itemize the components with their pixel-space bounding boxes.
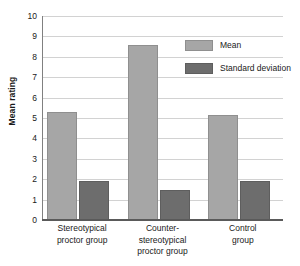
- y-tick-label-10: 10: [3, 12, 42, 21]
- x-label-line: group: [191, 235, 295, 247]
- x-label-group-3: Controlgroup: [191, 223, 295, 246]
- bar-standard-deviation-group-1: [79, 181, 109, 220]
- y-tick-label-6: 6: [3, 93, 42, 102]
- x-axis-line: [42, 219, 283, 221]
- bar-standard-deviation-group-2: [160, 190, 190, 220]
- x-label-line: Control: [191, 223, 295, 235]
- legend-swatch-standard-deviation-icon: [185, 63, 213, 74]
- bar-standard-deviation-group-3: [240, 181, 270, 220]
- y-tick-label-4: 4: [3, 134, 42, 143]
- y-tick-label-2: 2: [3, 175, 42, 184]
- bar-mean-group-3: [208, 115, 238, 220]
- x-label-line: proctor group: [110, 246, 214, 258]
- y-tick-label-3: 3: [3, 155, 42, 164]
- legend-item-mean: Mean: [185, 40, 291, 51]
- legend-item-standard-deviation: Standard deviation: [185, 63, 291, 74]
- x-axis-category-labels: Stereotypicalproctor groupCounter-stereo…: [42, 223, 283, 266]
- bar-mean-group-2: [128, 45, 158, 220]
- y-axis-line: [42, 16, 43, 220]
- bar-mean-group-1: [47, 112, 77, 220]
- bar-chart: Mean rating 109876543210 Mean Standard d…: [0, 0, 300, 266]
- y-tick-label-8: 8: [3, 53, 42, 62]
- y-tick-label-9: 9: [3, 32, 42, 41]
- y-tick-label-7: 7: [3, 73, 42, 82]
- legend-label-mean: Mean: [220, 41, 241, 50]
- chart-legend: Mean Standard deviation: [185, 40, 291, 86]
- legend-label-standard-deviation: Standard deviation: [220, 64, 291, 73]
- y-tick-label-1: 1: [3, 195, 42, 204]
- legend-swatch-mean-icon: [185, 40, 213, 51]
- y-tick-label-5: 5: [3, 114, 42, 123]
